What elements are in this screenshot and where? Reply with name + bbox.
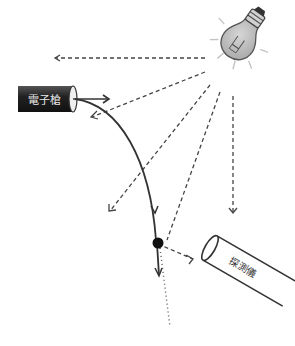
- detector: 探測儀: [199, 233, 295, 306]
- electron-gun-label: 電子槍: [28, 93, 61, 107]
- scattered-ray: [158, 244, 193, 259]
- light-rays: [56, 58, 233, 259]
- electron-trajectory: [75, 99, 156, 240]
- light-bulb: [199, 0, 286, 80]
- deflected-path: [157, 244, 159, 275]
- diagram-canvas: 電子槍 探測儀: [0, 0, 295, 346]
- undeflected-path: [160, 248, 170, 327]
- ray-left-down: [92, 72, 205, 117]
- ray-to-particle: [167, 92, 220, 240]
- electron-gun: 電子槍: [18, 86, 77, 112]
- arrowhead-icon: [91, 111, 98, 119]
- electron-particle: [153, 238, 164, 249]
- detector-opening: [199, 233, 222, 262]
